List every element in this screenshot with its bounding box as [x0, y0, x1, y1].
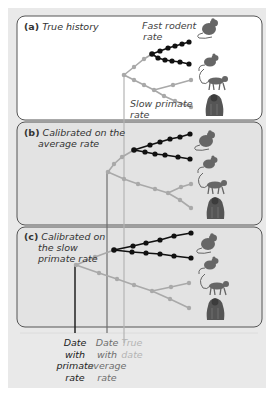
panel-a-title: (a) True history	[24, 21, 99, 32]
panel-b-title-line1: Calibrated on the	[43, 127, 126, 138]
monkey-branch-b-node	[179, 185, 183, 189]
rodent-split-node-b	[131, 147, 137, 153]
rat-branch-a-node	[179, 41, 184, 46]
fast-rodent-line1: Fast rodent	[142, 20, 196, 31]
mouse-branch-c-node	[129, 249, 134, 254]
rat-branch-c-node	[130, 243, 135, 248]
true-date-line1: True	[118, 337, 146, 349]
gorilla-branch-c-node	[187, 306, 191, 310]
mouse-branch-c-node	[157, 251, 162, 256]
rodent-stem-a-node	[132, 65, 136, 69]
panel-c-title-line2: the slow	[24, 242, 105, 253]
rat-branch-b-node	[157, 139, 162, 144]
mouse-branch-a-node	[155, 55, 160, 60]
primate-stem-c-node	[115, 277, 119, 281]
slow-primate-line1: Slow primate	[130, 98, 193, 109]
monkey-branch-a-node	[171, 83, 175, 87]
rodent-split-node-a	[149, 51, 155, 57]
rat-branch-c-node	[157, 237, 162, 242]
rat-branch-c-node	[143, 240, 148, 245]
rat-branch-b-node	[187, 131, 192, 136]
monkey-branch-a-node	[189, 78, 193, 82]
fast-rodent-line2: rate	[142, 31, 196, 42]
rat-branch-b-node	[167, 136, 172, 141]
panel-a-title-text: True history	[42, 21, 99, 32]
rat-branch-a-node	[172, 43, 177, 48]
root-node-b	[106, 170, 111, 175]
gorilla-branch-b-node	[189, 206, 193, 210]
primate-stem-c-node	[132, 283, 136, 287]
panel-b-letter: (b)	[24, 127, 39, 138]
monkey-branch-c-node	[169, 285, 173, 289]
rodent-stem-a-node	[142, 57, 146, 61]
root-node-a	[122, 73, 127, 78]
mouse-branch-b-node	[152, 151, 157, 156]
mouse-branch-a-node	[169, 58, 174, 63]
panel-c-title-line1: Calibrated on	[41, 231, 105, 242]
rat-branch-c-node	[171, 233, 176, 238]
mouse-branch-a-node	[177, 59, 182, 64]
primate-stem-b-node	[122, 177, 126, 181]
rat-branch-a-node	[157, 48, 162, 53]
mouse-branch-a-node	[162, 57, 167, 62]
rat-branch-c-node	[188, 230, 193, 235]
slow-primate-annotation: Slow primate rate	[130, 98, 193, 120]
mouse-branch-c-node	[171, 253, 176, 258]
rodent-split-node-c	[111, 247, 117, 253]
rat-branch-b-node	[177, 134, 182, 139]
monkey-branch-b-node	[189, 182, 193, 186]
slow-primate-line2: rate	[130, 109, 193, 120]
rat-branch-a-node	[165, 45, 170, 50]
panel-a-letter: (a)	[24, 21, 39, 32]
panel-c-title-line3: primate rate	[24, 253, 105, 264]
mouse-branch-b-node	[142, 149, 147, 154]
mouse-branch-a-node	[186, 61, 191, 66]
mouse-branch-b-node	[162, 152, 167, 157]
true-date-label: True date	[118, 337, 146, 360]
phylogeny-diagram	[0, 0, 274, 394]
primate-stem-a-node	[142, 83, 146, 87]
monkey-branch-c-node	[187, 281, 191, 285]
panel-c-letter: (c)	[24, 231, 38, 242]
fast-rodent-annotation: Fast rodent rate	[142, 20, 196, 42]
mouse-branch-c-node	[188, 255, 193, 260]
mouse-branch-b-node	[187, 156, 192, 161]
mouse-branch-b-node	[175, 154, 180, 159]
panel-c-title: (c) Calibrated on the slow primate rate	[24, 231, 105, 264]
primate-stem-b-node	[153, 187, 157, 191]
gorilla-branch-c-node	[168, 297, 172, 301]
date-average-line4: rate	[86, 372, 128, 384]
panel-b-title: (b) Calibrated on the average rate	[24, 127, 125, 149]
true-date-line2: date	[118, 349, 146, 361]
date-average-line3: average	[86, 360, 128, 372]
panel-b-title-line2: average rate	[24, 138, 125, 149]
primate-stem-b-node	[136, 182, 140, 186]
gorilla-branch-b-node	[178, 198, 182, 202]
mouse-branch-c-node	[143, 250, 148, 255]
primate-stem-c-node	[97, 271, 101, 275]
primate-stem-a-node	[132, 78, 136, 82]
rat-branch-b-node	[147, 142, 152, 147]
rodent-stem-b-node	[112, 162, 116, 166]
rodent-stem-b-node	[120, 155, 124, 159]
